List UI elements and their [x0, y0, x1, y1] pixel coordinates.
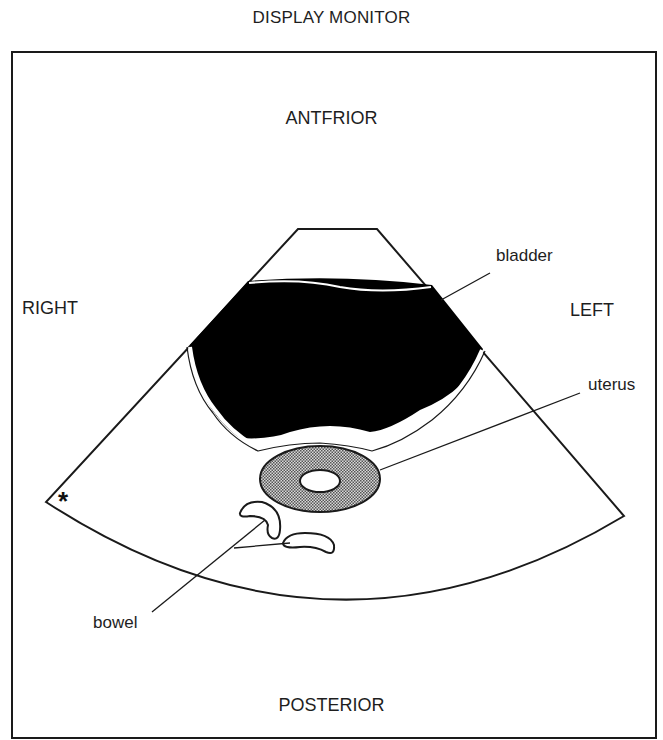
label-anterior: ANTFRIOR [0, 108, 663, 129]
label-patient-right: RIGHT [22, 298, 78, 319]
label-bladder: bladder [496, 246, 553, 266]
uterus-cavity [300, 470, 340, 492]
label-uterus: uterus [588, 375, 635, 395]
asterisk-marker-icon: * [58, 488, 68, 514]
label-patient-left: LEFT [570, 300, 614, 321]
label-posterior: POSTERIOR [0, 695, 663, 716]
label-bowel: bowel [93, 613, 137, 633]
bladder-leader-line [441, 273, 490, 300]
